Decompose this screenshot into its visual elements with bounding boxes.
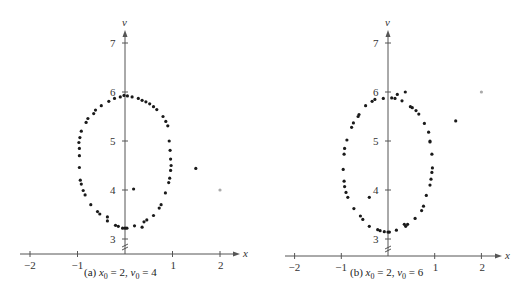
data-point bbox=[133, 224, 136, 227]
data-point bbox=[168, 177, 171, 180]
data-point bbox=[422, 205, 425, 208]
figure: xv−2−11234567 xv−2−11234567 bbox=[0, 0, 521, 304]
data-point bbox=[352, 121, 355, 124]
data-point bbox=[82, 189, 85, 192]
v-tick-label: 6 bbox=[373, 86, 379, 98]
caption-b-x0: 2 bbox=[386, 266, 392, 278]
data-point bbox=[359, 214, 362, 217]
data-point bbox=[126, 94, 129, 97]
data-point bbox=[373, 98, 376, 101]
data-point bbox=[423, 122, 426, 125]
data-point bbox=[137, 97, 140, 100]
caption-b-prefix: (b) bbox=[350, 266, 366, 278]
data-point bbox=[106, 215, 109, 218]
caption-a-prefix: (a) bbox=[84, 266, 99, 278]
data-point bbox=[169, 169, 172, 172]
chart-a: xv−2−11234567 bbox=[20, 16, 248, 271]
data-point bbox=[361, 218, 364, 221]
data-point bbox=[425, 194, 428, 197]
data-point bbox=[86, 117, 89, 120]
x-tick-label: −1 bbox=[335, 261, 347, 273]
caption-a: (a) x0 = 2, v0 = 4 bbox=[84, 266, 157, 281]
data-point bbox=[395, 229, 398, 232]
x-axis-label: x bbox=[504, 249, 510, 261]
data-point bbox=[411, 106, 414, 109]
data-point bbox=[393, 97, 396, 100]
data-point bbox=[167, 181, 170, 184]
data-point bbox=[400, 99, 403, 102]
data-point bbox=[350, 126, 353, 129]
x-axis-label: x bbox=[242, 247, 248, 259]
data-point bbox=[132, 187, 135, 190]
data-point bbox=[158, 207, 161, 210]
data-point bbox=[80, 130, 83, 133]
x-tick-label: −1 bbox=[72, 259, 84, 271]
x-tick-label: 1 bbox=[433, 261, 439, 273]
data-point bbox=[141, 99, 144, 102]
data-point bbox=[89, 203, 92, 206]
v-tick-label: 5 bbox=[373, 135, 379, 147]
v-tick-label: 7 bbox=[110, 37, 116, 49]
data-point bbox=[343, 185, 346, 188]
data-point bbox=[169, 158, 172, 161]
data-point bbox=[428, 140, 431, 143]
data-point bbox=[430, 171, 433, 174]
data-point bbox=[77, 141, 80, 144]
x-tick-label: 2 bbox=[479, 261, 485, 273]
v-axis-arrow-icon bbox=[123, 30, 128, 37]
v-tick-label: 3 bbox=[373, 233, 379, 245]
data-point bbox=[406, 223, 409, 226]
data-point bbox=[371, 100, 374, 103]
v-tick-label: 3 bbox=[110, 233, 116, 245]
data-point bbox=[404, 90, 407, 93]
data-point bbox=[428, 184, 431, 187]
caption-b-v0: 6 bbox=[418, 266, 424, 278]
data-point bbox=[94, 109, 97, 112]
v-tick-label: 5 bbox=[110, 135, 116, 147]
data-point bbox=[96, 210, 99, 213]
data-point bbox=[152, 105, 155, 108]
caption-a-v0: 4 bbox=[151, 266, 157, 278]
data-point bbox=[364, 104, 367, 107]
data-point bbox=[113, 97, 116, 100]
data-point bbox=[164, 120, 167, 123]
data-point bbox=[152, 214, 155, 217]
data-point bbox=[142, 220, 145, 223]
initial-point bbox=[218, 188, 221, 191]
data-point bbox=[92, 112, 95, 115]
data-point bbox=[357, 115, 360, 118]
data-point bbox=[84, 193, 87, 196]
v-tick-label: 7 bbox=[373, 37, 379, 49]
data-point bbox=[368, 196, 371, 199]
data-point bbox=[382, 97, 385, 100]
x-tick-label: 2 bbox=[218, 259, 224, 271]
data-point bbox=[417, 113, 420, 116]
data-point bbox=[344, 191, 347, 194]
data-point bbox=[420, 209, 423, 212]
data-point bbox=[98, 212, 101, 215]
caption-b: (b) x0 = 2, v0 = 6 bbox=[350, 266, 423, 281]
x-tick-label: 1 bbox=[171, 259, 177, 271]
data-point bbox=[379, 229, 382, 232]
data-point bbox=[427, 131, 430, 134]
data-point bbox=[100, 104, 103, 107]
data-point bbox=[79, 179, 82, 182]
data-point bbox=[383, 230, 386, 233]
v-tick-label: 4 bbox=[110, 184, 116, 196]
data-point bbox=[343, 147, 346, 150]
data-point bbox=[390, 96, 393, 99]
data-point bbox=[431, 166, 434, 169]
data-point bbox=[125, 227, 128, 230]
data-point bbox=[346, 196, 349, 199]
data-point bbox=[396, 93, 399, 96]
data-point bbox=[107, 100, 110, 103]
x-axis-arrow-icon bbox=[233, 252, 240, 257]
data-point bbox=[80, 183, 83, 186]
data-point bbox=[345, 138, 348, 141]
x-tick-label: −2 bbox=[289, 261, 301, 273]
data-point bbox=[352, 207, 355, 210]
data-point bbox=[148, 102, 151, 105]
v-axis-label: v bbox=[122, 16, 127, 28]
v-tick-label: 6 bbox=[110, 86, 116, 98]
initial-point bbox=[480, 90, 483, 93]
